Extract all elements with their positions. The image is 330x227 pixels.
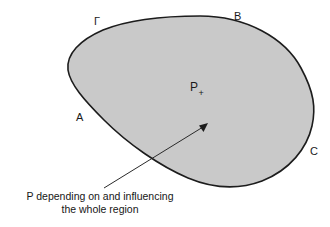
caption: P depending on and influencing the whole… <box>0 190 200 215</box>
interior-point-label: P+ <box>190 81 203 96</box>
point-label-c: C <box>310 146 318 157</box>
boundary-label-gamma: Γ <box>94 16 100 27</box>
caption-line-1: P depending on and influencing <box>0 190 200 203</box>
interior-point-subscript: + <box>199 88 204 98</box>
shaded-region <box>68 16 314 187</box>
interior-point-letter: P <box>190 80 198 94</box>
caption-line-2: the whole region <box>0 203 200 216</box>
diagram-canvas: Γ B A C P+ P depending on and influencin… <box>0 0 330 227</box>
point-label-a: A <box>76 112 83 123</box>
point-label-b: B <box>234 11 241 22</box>
